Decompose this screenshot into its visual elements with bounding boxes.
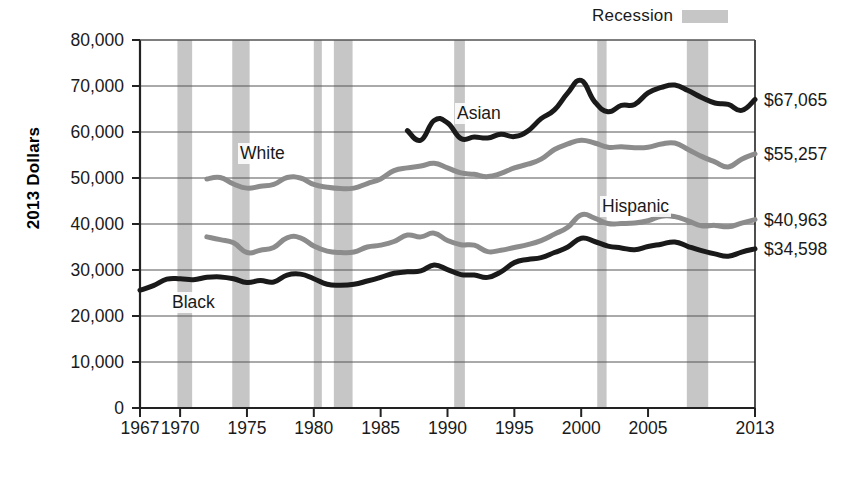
plot-area: [0, 0, 862, 480]
y-tick-label: 20,000: [70, 306, 124, 327]
x-tick-label: 1995: [495, 418, 534, 439]
x-tick-label: 2000: [562, 418, 601, 439]
series-tag-black: Black: [170, 292, 217, 313]
x-tick-label: 1980: [294, 418, 333, 439]
series-tag-asian: Asian: [455, 103, 503, 124]
x-tick-label: 2005: [629, 418, 668, 439]
end-label-black: $34,598: [764, 238, 827, 259]
y-tick-label: 30,000: [70, 260, 124, 281]
series-line-white: [207, 140, 755, 189]
x-tick-label: 1975: [227, 418, 266, 439]
y-tick-label: 50,000: [70, 168, 124, 189]
y-tick-label: 0: [114, 398, 124, 419]
axis-lines: [132, 40, 755, 417]
x-tick-label: 2013: [736, 418, 775, 439]
x-tick-label: 1967: [121, 418, 160, 439]
end-label-asian: $67,065: [764, 89, 827, 110]
x-tick-label: 1985: [361, 418, 400, 439]
y-tick-label: 70,000: [70, 76, 124, 97]
end-label-hispanic: $40,963: [764, 209, 827, 230]
series-tag-hispanic: Hispanic: [600, 196, 671, 217]
y-tick-label: 10,000: [70, 352, 124, 373]
x-tick-label: 1970: [161, 418, 200, 439]
y-tick-label: 80,000: [70, 30, 124, 51]
y-tick-label: 40,000: [70, 214, 124, 235]
series-tag-white: White: [238, 143, 287, 164]
y-axis-ticks: 010,00020,00030,00040,00050,00060,00070,…: [0, 0, 124, 480]
y-tick-label: 60,000: [70, 122, 124, 143]
x-tick-label: 1990: [428, 418, 467, 439]
chart-container: Recession 2013 Dollars 010,00020,00030,0…: [0, 0, 862, 480]
series-line-hispanic: [207, 214, 755, 253]
end-label-white: $55,257: [764, 143, 827, 164]
